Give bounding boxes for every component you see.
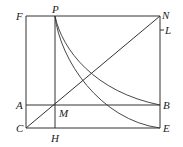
curve-PE (55, 16, 160, 128)
label-B: B (163, 99, 170, 111)
label-M: M (58, 107, 69, 119)
geometry-diagram: F P N L A M B C H E (0, 0, 183, 147)
label-A: A (15, 99, 23, 111)
label-N: N (161, 9, 170, 21)
label-F: F (15, 10, 23, 22)
label-P: P (51, 3, 59, 15)
segment-CN (26, 16, 160, 128)
label-C: C (16, 122, 24, 134)
label-E: E (162, 122, 170, 134)
label-H: H (50, 132, 60, 144)
label-L: L (164, 24, 171, 36)
